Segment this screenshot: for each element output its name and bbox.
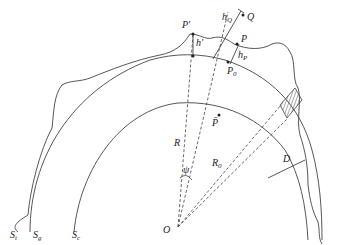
label-st: St bbox=[10, 230, 17, 242]
label-r: R bbox=[174, 138, 180, 148]
label-p-prime: P' bbox=[182, 20, 190, 30]
geodesy-diagram bbox=[0, 0, 338, 245]
label-sg: Sg bbox=[33, 230, 42, 242]
label-d: D bbox=[283, 154, 290, 164]
label-p0: P0 bbox=[227, 66, 237, 78]
label-h-prime: h' bbox=[196, 38, 203, 48]
label-hp: hP bbox=[238, 50, 247, 62]
label-sc: Sc bbox=[72, 230, 80, 242]
label-hq: hQ bbox=[222, 12, 232, 24]
label-p: P bbox=[241, 34, 247, 44]
label-psi: ψ bbox=[183, 165, 189, 175]
label-p-bar: P̄ bbox=[212, 118, 218, 128]
points bbox=[192, 14, 245, 117]
hq-tick bbox=[238, 9, 244, 13]
label-o: O bbox=[163, 225, 170, 235]
label-r0: R0 bbox=[212, 158, 222, 170]
label-q: Q bbox=[247, 12, 254, 22]
